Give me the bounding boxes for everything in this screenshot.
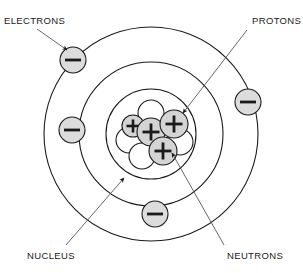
label-electrons: ELECTRONS	[4, 15, 65, 26]
electrons-leader	[37, 29, 67, 50]
atom-diagram: ELECTRONS PROTONS NUCLEUS NEUTRONS	[0, 0, 303, 273]
label-nucleus: NUCLEUS	[27, 250, 75, 261]
atom-svg-canvas: ELECTRONS PROTONS NUCLEUS NEUTRONS	[0, 0, 303, 273]
electron-right	[235, 89, 261, 115]
label-neutrons: NEUTRONS	[227, 250, 283, 261]
electron-left	[59, 117, 85, 143]
proton-upper-right	[160, 110, 188, 138]
electron-bottom	[142, 201, 168, 227]
electron-top-left	[60, 47, 86, 73]
label-protons: PROTONS	[252, 15, 301, 26]
proton-lower-center	[149, 137, 177, 165]
neutrons-leader	[172, 153, 224, 245]
